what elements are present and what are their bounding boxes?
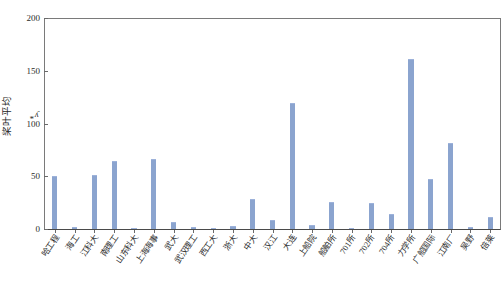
x-axis-tick-label-text: 武大 [164, 234, 180, 252]
x-axis-tick-label-text: 倍莱 [480, 234, 496, 252]
x-axis-tick-mark [391, 230, 392, 233]
x-axis-tick-label: 吴野 [460, 234, 476, 252]
x-axis-tick-label: 702所 [359, 234, 377, 256]
bar [230, 226, 235, 229]
x-axis-tick-label-text: 浙大 [223, 234, 239, 252]
x-axis-tick-label: 江南厂 [436, 234, 456, 259]
bar [369, 203, 374, 229]
x-axis-tick-mark [451, 230, 452, 233]
y-axis-tick-mark [44, 71, 48, 72]
bar [349, 228, 354, 229]
x-axis-tick-mark [174, 230, 175, 233]
x-axis-tick-label-text: 704所 [378, 234, 396, 256]
x-axis-tick-label: 哈工程 [40, 234, 60, 259]
bar [408, 59, 413, 229]
x-axis-tick-label-text: 西工大 [199, 234, 219, 259]
bar [171, 222, 176, 229]
x-axis-tick-label: 704所 [378, 234, 396, 256]
y-axis-tick-mark [44, 229, 48, 230]
x-axis-tick-label: 浙大 [223, 234, 239, 252]
x-axis-tick-mark [431, 230, 432, 233]
x-axis-tick-label: 江科大 [80, 234, 100, 259]
x-axis-tick-mark [352, 230, 353, 233]
x-axis-tick-mark [292, 230, 293, 233]
x-axis-tick-label: 西工大 [199, 234, 219, 259]
x-axis-tick-mark [253, 230, 254, 233]
bar [151, 159, 156, 229]
bar [448, 143, 453, 230]
x-axis-tick-label: 大连 [282, 234, 298, 252]
x-axis-tick-label: 汉江 [263, 234, 279, 252]
bar [72, 227, 77, 229]
x-axis-tick-mark [273, 230, 274, 233]
x-axis-tick-mark [154, 230, 155, 233]
bar [52, 176, 57, 229]
x-axis-tick-label-text: 哈工程 [40, 234, 60, 259]
bar [270, 220, 275, 229]
bar [211, 228, 216, 229]
x-axis-tick-label-text: 吴野 [460, 234, 476, 252]
bar [389, 214, 394, 229]
x-axis-tick-label: 中大 [243, 234, 259, 252]
x-axis-tick-label: 海工 [65, 234, 81, 252]
x-axis-tick-mark [233, 230, 234, 233]
x-axis-tick-label: 武大 [164, 234, 180, 252]
bar [112, 161, 117, 229]
bars-container [45, 18, 500, 229]
x-axis-tick-mark [470, 230, 471, 233]
y-axis-tick-mark [44, 176, 48, 177]
y-axis-tick-label: 100 [27, 119, 41, 128]
bar [329, 202, 334, 229]
y-axis-tick-labels: 050100150200 [18, 14, 42, 230]
bar [250, 199, 255, 229]
x-axis-tick-label-text: 上船院 [298, 234, 318, 259]
x-axis-tick-label: 倍莱 [480, 234, 496, 252]
bar [488, 217, 493, 229]
bar [191, 227, 196, 229]
x-axis-tick-mark [411, 230, 412, 233]
bar [131, 228, 136, 229]
x-axis-tick-labels: 哈工程海工江科大南理工山东科大上海海事武大武汉理工西工大浙大中大汉江大连上船院船… [0, 232, 503, 298]
y-axis-tick-mark [44, 18, 48, 19]
x-axis-tick-mark [94, 230, 95, 233]
x-axis-tick-mark [332, 230, 333, 233]
x-axis-tick-label: 上船院 [298, 234, 318, 259]
x-axis-tick-mark [134, 230, 135, 233]
x-axis-tick-label-text: 汉江 [263, 234, 279, 252]
x-axis-tick-label: 船舶所 [317, 234, 337, 259]
x-axis-tick-mark [213, 230, 214, 233]
bar [290, 103, 295, 229]
bar [428, 179, 433, 229]
x-axis-tick-mark [114, 230, 115, 233]
x-axis-tick-label-text: 船舶所 [317, 234, 337, 259]
x-axis-tick-mark [75, 230, 76, 233]
bar [309, 225, 314, 229]
x-axis-tick-mark [371, 230, 372, 233]
x-axis-tick-label-text: 大连 [282, 234, 298, 252]
y-axis-tick-label: 50 [31, 172, 40, 181]
bar [92, 175, 97, 229]
y-axis-tick-mark [44, 124, 48, 125]
x-axis-tick-mark [312, 230, 313, 233]
x-axis-tick-label-text: 海工 [65, 234, 81, 252]
y-axis-tick-label: 200 [27, 14, 41, 23]
x-axis-tick-mark [55, 230, 56, 233]
bar-chart: 桨叶平均 y* 050100150200 哈工程海工江科大南理工山东科大上海海事… [0, 0, 503, 298]
x-axis-tick-label-text: 江科大 [80, 234, 100, 259]
bar [468, 227, 473, 229]
x-axis-tick-label-text: 江南厂 [436, 234, 456, 259]
x-axis-tick-mark [193, 230, 194, 233]
y-axis-tick-label: 150 [27, 66, 41, 75]
x-axis-tick-label-text: 702所 [359, 234, 377, 256]
x-axis-tick-label-text: 中大 [243, 234, 259, 252]
x-axis-tick-mark [490, 230, 491, 233]
x-axis-tick-label-text: 701所 [339, 234, 357, 256]
x-axis-tick-label: 701所 [339, 234, 357, 256]
